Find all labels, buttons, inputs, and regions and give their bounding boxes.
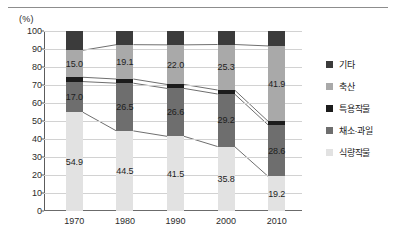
connector-특용작물-3 [235,90,269,121]
value-label-축산-1980: 19.1 [116,57,133,67]
y-tickmark-0 [41,211,44,212]
value-label-채소·과일-1970: 17.0 [66,92,83,102]
y-tickmark-100 [41,31,44,32]
value-label-채소·과일-2000: 29.2 [218,115,235,125]
value-label-채소·과일-1980: 26.5 [116,102,133,112]
y-axis-tick-labels: 1009080706050403020100 [12,0,42,248]
value-label-채소·과일-1990: 26.6 [167,107,184,117]
bar-segment-특용작물-1990[interactable] [167,84,184,88]
value-label-축산-2010: 41.9 [268,79,285,89]
frame-top-rule [8,7,388,8]
bar-segment-기타-1970[interactable] [66,31,83,50]
x-axis-tick-1990: 1990 [153,216,199,226]
legend-label-기타: 기타 [339,58,355,71]
y-axis-tick-40: 40 [16,135,42,144]
y-tickmark-70 [41,85,44,86]
legend-label-축산: 축산 [339,80,355,93]
y-tickmark-50 [41,121,44,122]
y-axis-tick-100: 100 [16,27,42,36]
bar-segment-특용작물-1980[interactable] [116,79,133,83]
chart-container: (%) 1009080706050403020100 기타축산특용작물채소·과일… [0,0,396,248]
value-label-식량작물-1970: 54.9 [66,157,83,167]
legend-item-특용작물[interactable]: 특용작물 [326,102,373,115]
legend-swatch-icon-특용작물 [326,105,333,112]
legend-label-채소·과일: 채소·과일 [339,124,373,137]
x-axis-tick-1970: 1970 [51,216,97,226]
y-axis-tick-10: 10 [16,189,42,198]
legend-item-채소·과일[interactable]: 채소·과일 [326,124,373,137]
legend-swatch-icon-기타 [326,61,333,68]
y-tickmark-80 [41,67,44,68]
legend-label-특용작물: 특용작물 [339,102,370,115]
legend-swatch-icon-축산 [326,83,333,90]
y-axis-tick-20: 20 [16,171,42,180]
x-axis-tick-2000: 2000 [203,216,249,226]
chart-legend: 기타축산특용작물채소·과일식량작물 [326,58,373,159]
bar-segment-특용작물-1970[interactable] [66,77,83,81]
connector-채소·과일-0 [83,82,117,84]
y-tickmark-30 [41,157,44,158]
legend-swatch-icon-채소·과일 [326,127,333,134]
bar-segment-특용작물-2010[interactable] [268,121,285,125]
y-axis-tick-70: 70 [16,81,42,90]
bar-2010[interactable] [268,31,285,211]
value-label-식량작물-1990: 41.5 [167,169,184,179]
value-label-축산-2000: 25.3 [218,62,235,72]
connector-식량작물-2 [184,136,218,146]
y-tickmark-60 [41,103,44,104]
y-axis-tick-0: 0 [16,207,42,216]
connector-식량작물-1 [133,131,167,136]
connector-축산-3 [235,45,269,46]
value-label-축산-1990: 22.0 [167,60,184,70]
connector-특용작물-0 [83,77,117,79]
bar-segment-기타-1980[interactable] [116,31,133,45]
y-axis-tick-30: 30 [16,153,42,162]
bar-segment-특용작물-2000[interactable] [218,90,235,94]
x-axis-tick-1980: 1980 [102,216,148,226]
bar-segment-기타-2000[interactable] [218,31,235,45]
y-tickmark-40 [41,139,44,140]
value-label-식량작물-2010: 19.2 [268,189,285,199]
y-axis-tick-90: 90 [16,45,42,54]
y-tickmark-20 [41,175,44,176]
legend-item-식량작물[interactable]: 식량작물 [326,146,373,159]
value-label-식량작물-1980: 44.5 [116,166,133,176]
x-axis-tick-2010: 2010 [254,216,300,226]
legend-swatch-icon-식량작물 [326,149,333,156]
y-axis-tick-80: 80 [16,63,42,72]
connector-식량작물-3 [235,147,269,177]
y-tickmark-90 [41,49,44,50]
legend-item-축산[interactable]: 축산 [326,80,373,93]
y-axis-tick-50: 50 [16,117,42,126]
y-tickmark-10 [41,193,44,194]
value-label-채소·과일-2010: 28.6 [268,146,285,156]
y-axis-tick-60: 60 [16,99,42,108]
value-label-식량작물-2000: 35.8 [218,174,235,184]
bar-segment-기타-1990[interactable] [167,31,184,45]
legend-item-기타[interactable]: 기타 [326,58,373,71]
bar-segment-기타-2010[interactable] [268,31,285,46]
bar-1990[interactable] [167,31,184,211]
legend-label-식량작물: 식량작물 [339,146,370,159]
value-label-축산-1970: 15.0 [66,59,83,69]
